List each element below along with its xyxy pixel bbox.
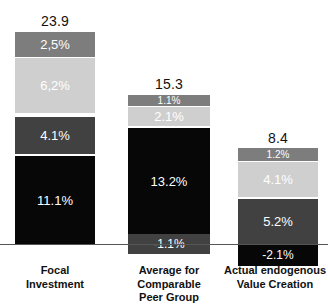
- category-label-line: Actual endogenous: [222, 264, 328, 278]
- bar-segment[interactable]: 1.2%: [238, 148, 318, 161]
- bar-segment[interactable]: 11.1%: [15, 156, 95, 244]
- bar-segment[interactable]: 6,2%: [15, 58, 95, 113]
- bar-total-label: 8.4: [238, 130, 318, 146]
- bar-segment-label: 2.1%: [154, 110, 184, 123]
- bar-group-peer-group-average[interactable]: 15.3 1.1% 2.1% 13.2% -1.1%: [128, 0, 210, 260]
- bar-segment[interactable]: 13.2%: [128, 128, 210, 234]
- bar-segment[interactable]: 1.1%: [128, 95, 210, 106]
- category-axis-labels: Focal Investment Average for Comparable …: [0, 264, 328, 307]
- bar-segment-label: 1.2%: [267, 150, 290, 160]
- category-label-focal-investment: Focal Investment: [11, 264, 99, 291]
- bar-segment-label: 5.2%: [263, 215, 293, 228]
- bar-segment-negative[interactable]: -2.1%: [238, 244, 318, 266]
- bar-group-actual-endogenous-value-creation[interactable]: 8.4 1.2% 4.1% 5.2% -2.1%: [238, 0, 318, 260]
- bar-segment-label: 6,2%: [40, 79, 70, 92]
- bar-segment[interactable]: 4.1%: [15, 117, 95, 154]
- zero-axis-line: [0, 244, 328, 245]
- category-label-line: Investment: [11, 278, 99, 292]
- category-label-actual-endogenous-value-creation: Actual endogenous Value Creation: [222, 264, 328, 291]
- bar-segment[interactable]: 2.1%: [128, 107, 210, 126]
- bar-group-focal-investment[interactable]: 23.9 2,5% 6,2% 4.1% 11.1%: [15, 0, 95, 260]
- bar-segment[interactable]: 5.2%: [238, 199, 318, 244]
- category-label-line: Value Creation: [222, 278, 328, 292]
- category-label-peer-group-average: Average for Comparable Peer Group: [124, 264, 214, 305]
- bar-segment-label: 2,5%: [40, 38, 70, 51]
- category-label-line: Comparable: [124, 278, 214, 292]
- bar-segment-label: 11.1%: [37, 194, 73, 207]
- bar-total-label: 23.9: [15, 13, 95, 29]
- plot-area: 23.9 2,5% 6,2% 4.1% 11.1% 15.3 1.1% 2.1%: [0, 0, 328, 260]
- bar-segment-label: -2.1%: [262, 249, 293, 261]
- bar-segment-label: 4.1%: [40, 129, 70, 142]
- bar-segment[interactable]: 2,5%: [15, 32, 95, 57]
- category-label-line: Average for: [124, 264, 214, 278]
- bar-segment-label: 4.1%: [263, 173, 293, 186]
- bar-total-label: 15.3: [128, 76, 210, 92]
- bar-segment-label: 13.2%: [151, 175, 188, 188]
- bar-segment-label: 1.1%: [158, 96, 181, 106]
- category-label-line: Focal: [11, 264, 99, 278]
- stacked-bar-chart: 23.9 2,5% 6,2% 4.1% 11.1% 15.3 1.1% 2.1%: [0, 0, 328, 307]
- category-label-line: Peer Group: [124, 291, 214, 305]
- bar-segment[interactable]: 4.1%: [238, 162, 318, 197]
